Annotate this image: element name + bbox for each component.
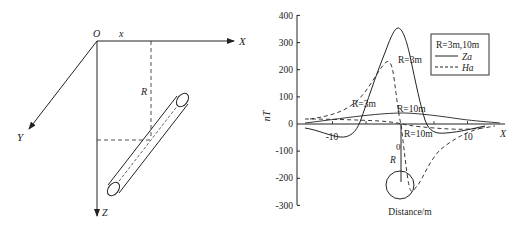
chart-legend: R=3m,10m Za Ha [431, 34, 489, 75]
y-axis-label: Y [17, 131, 25, 143]
ha-r10m-label: R=10m [404, 129, 433, 139]
legend-za-label: Za [462, 52, 472, 62]
magnetic-anomaly-chart: 400 300 200 100 0 -100 -200 -300 nT -10 … [261, 11, 507, 217]
pipe-cross-section [386, 171, 414, 199]
ytick-400: 400 [279, 11, 294, 21]
x-axis-end-label: X [499, 128, 507, 139]
ytick-200: 200 [279, 65, 294, 75]
ytick-neg100: -100 [276, 146, 294, 156]
x-distance-label: x [118, 28, 124, 39]
za-r3m-label: R=3m [398, 55, 422, 65]
z-axis-label: Z [102, 207, 108, 218]
circle-radius-label: R [389, 155, 396, 165]
y-axis [29, 41, 97, 129]
x-axis-label: X [238, 35, 247, 47]
ha-r3m-curve [310, 62, 485, 192]
pipe-cylinder [105, 91, 191, 198]
ytick-neg300: -300 [276, 201, 294, 211]
origin-label: O [93, 28, 100, 39]
y-axis-title: nT [261, 109, 272, 121]
za-r10m-curve [305, 113, 500, 123]
ytick-0: 0 [288, 119, 293, 129]
xtick-10: 10 [463, 132, 473, 142]
legend-title: R=3m,10m [436, 40, 480, 50]
xtick-neg10: -10 [326, 132, 339, 142]
ytick-100: 100 [279, 92, 294, 102]
center-zero-label: 0 [396, 142, 401, 152]
ytick-neg200: -200 [276, 173, 294, 183]
coordinate-diagram: O x X Y Z R [17, 28, 247, 218]
ytick-300: 300 [279, 38, 294, 48]
y-tick-labels: 400 300 200 100 0 -100 -200 -300 [276, 11, 294, 211]
x-axis-title: Distance/m [388, 207, 432, 217]
ha-r3m-label: R=3m [352, 99, 376, 109]
legend-ha-label: Ha [461, 63, 474, 73]
za-r10m-label: R=10m [397, 104, 426, 114]
radius-label: R [140, 86, 147, 97]
